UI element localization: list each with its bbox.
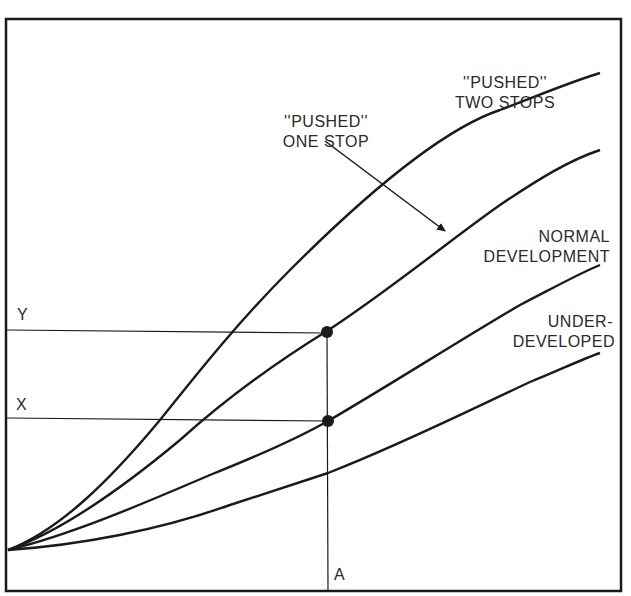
label-pushed-one-stop-line2: ONE STOP bbox=[276, 132, 376, 151]
a-reference-line bbox=[327, 333, 328, 591]
label-y-marker: Y bbox=[17, 305, 28, 324]
label-pushed-one-stop-line1: ''PUSHED'' bbox=[276, 112, 376, 131]
label-pushed-two-stops-line1: ''PUSHED'' bbox=[450, 73, 560, 92]
label-a-marker: A bbox=[334, 565, 345, 584]
x-reference-line bbox=[7, 418, 328, 421]
y-reference-line bbox=[7, 330, 327, 333]
point-x bbox=[322, 415, 334, 427]
point-y bbox=[321, 326, 333, 338]
label-normal-line2: DEVELOPMENT bbox=[460, 247, 610, 266]
label-pushed-two-stops-line2: TWO STOPS bbox=[450, 93, 560, 112]
curve-normal-development bbox=[8, 265, 600, 550]
label-x-marker: X bbox=[16, 395, 27, 414]
label-under-line1: UNDER- bbox=[460, 312, 613, 331]
label-normal-line1: NORMAL bbox=[460, 227, 610, 246]
label-under-line2: DEVELOPED bbox=[460, 332, 615, 351]
